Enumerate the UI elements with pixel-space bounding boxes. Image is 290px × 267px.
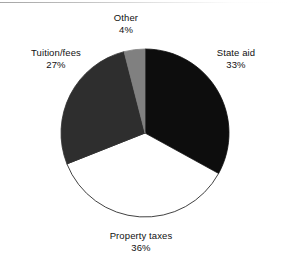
pie-slice-group — [61, 49, 229, 217]
slice-label-other-value: 4% — [86, 24, 166, 36]
slice-label-property-taxes-value: 36% — [85, 242, 197, 254]
slice-label-state-aid-value: 33% — [197, 59, 275, 71]
slice-label-other-name: Other — [86, 12, 166, 24]
slice-label-other: Other 4% — [86, 12, 166, 36]
slice-label-tuition-fees: Tuition/fees 27% — [12, 47, 100, 71]
slice-label-property-taxes: Property taxes 36% — [85, 230, 197, 254]
pie-chart-graphic — [0, 0, 290, 267]
slice-label-tuition-fees-value: 27% — [12, 59, 100, 71]
slice-label-state-aid-name: State aid — [197, 47, 275, 59]
slice-label-state-aid: State aid 33% — [197, 47, 275, 71]
slice-label-tuition-fees-name: Tuition/fees — [12, 47, 100, 59]
slice-label-property-taxes-name: Property taxes — [85, 230, 197, 242]
chart-area: Other 4% State aid 33% Tuition/fees 27% … — [0, 0, 290, 267]
pie-chart-figure: Other 4% State aid 33% Tuition/fees 27% … — [0, 0, 290, 267]
